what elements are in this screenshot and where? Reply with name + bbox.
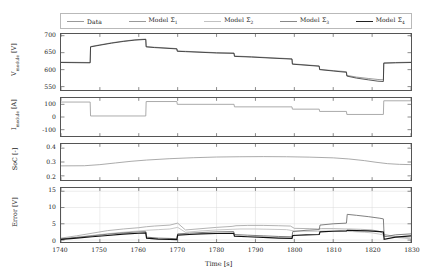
- y-axis-label-soc: SoC [-]: [11, 136, 19, 182]
- y-tick-error-2: 5: [32, 220, 56, 227]
- y-tick-soc-1: 0.3: [32, 158, 56, 165]
- legend-line-swatch-model-1: [129, 21, 146, 22]
- y-tick-current-1: 0: [32, 113, 56, 120]
- legend-sub-2: 2: [251, 21, 254, 26]
- x-tick-0: 1740: [46, 246, 74, 253]
- ylab-i-sub: module: [15, 111, 20, 127]
- x-tick-1: 1750: [85, 246, 113, 253]
- figure: Data Model Σ1 Model Σ2 Model Σ3 Model Σ4…: [0, 0, 430, 275]
- x-tick-8: 1820: [359, 246, 387, 253]
- series-voltage-0: [61, 39, 411, 80]
- y-tick-voltage-2: 600: [32, 66, 56, 73]
- ylab-i-unit: [A]: [10, 99, 18, 109]
- legend-sub-1: 1: [175, 21, 178, 26]
- legend-entry-model-2: Model Σ2: [204, 16, 253, 25]
- y-tick-soc-2: 0.2: [32, 173, 56, 180]
- legend-entry-model-3: Model Σ3: [280, 16, 329, 25]
- subplot-voltage: [60, 33, 412, 91]
- y-axis-label-current: Imodule [A]: [10, 86, 19, 144]
- y-tick-current-2: -100: [32, 126, 56, 133]
- x-tick-4: 1780: [202, 246, 230, 253]
- legend-label-model-3: Model Σ3: [300, 16, 329, 25]
- legend-label-model-2: Model Σ2: [224, 16, 253, 25]
- series-voltage-1: [61, 39, 411, 81]
- legend-line-swatch-model-2: [204, 21, 221, 22]
- y-tick-voltage-3: 550: [32, 83, 56, 90]
- ylab-v-sym: V: [10, 71, 18, 76]
- x-tick-6: 1800: [281, 246, 309, 253]
- legend-entry-model-1: Model Σ1: [129, 16, 178, 25]
- y-tick-current-0: 100: [32, 100, 56, 107]
- series-soc-0: [61, 157, 411, 166]
- y-axis-label-voltage: Vmodule [V]: [10, 31, 19, 89]
- ylab-v-sub: module: [15, 55, 20, 71]
- legend-label-data: Data: [87, 18, 102, 25]
- legend-label-model-1: Model Σ1: [149, 16, 178, 25]
- legend-line-swatch-model-3: [280, 21, 297, 22]
- legend-entry-data: Data: [67, 18, 102, 25]
- x-tick-2: 1760: [124, 246, 152, 253]
- y-axis-label-error: Error [V]: [11, 189, 19, 235]
- x-tick-3: 1770: [163, 246, 191, 253]
- x-axis-label: Time [s]: [205, 260, 232, 268]
- legend-sub-3: 3: [326, 21, 329, 26]
- legend: Data Model Σ1 Model Σ2 Model Σ3 Model Σ4: [60, 13, 412, 29]
- legend-label-model-4: Model Σ4: [376, 16, 405, 25]
- ylab-i-sym: I: [10, 127, 18, 130]
- ylab-v-unit: [V]: [10, 43, 18, 53]
- x-tick-9: 1830: [398, 246, 426, 253]
- legend-line-swatch-data: [67, 21, 84, 22]
- subplot-soc: [60, 143, 412, 181]
- legend-line-swatch-model-4: [356, 21, 373, 22]
- x-tick-5: 1790: [242, 246, 270, 253]
- y-tick-error-0: 15: [32, 186, 56, 193]
- x-tick-7: 1810: [320, 246, 348, 253]
- y-tick-error-3: 0: [32, 237, 56, 244]
- subplot-error: [60, 187, 412, 243]
- legend-entry-model-4: Model Σ4: [356, 16, 405, 25]
- series-current-0: [61, 101, 411, 116]
- legend-sub-4: 4: [402, 21, 405, 26]
- y-tick-soc-0: 0.4: [32, 143, 56, 150]
- y-tick-voltage-1: 650: [32, 48, 56, 55]
- subplot-current: [60, 97, 412, 137]
- y-tick-error-1: 10: [32, 203, 56, 210]
- y-tick-voltage-0: 700: [32, 31, 56, 38]
